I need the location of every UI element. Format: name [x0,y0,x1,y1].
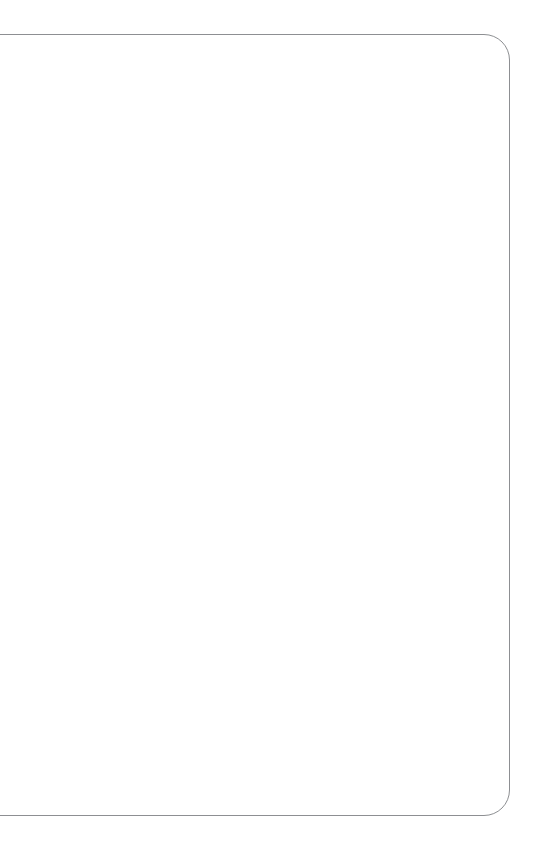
flowchart-diagram [0,0,535,864]
